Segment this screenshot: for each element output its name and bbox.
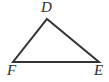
triangle-shape (0, 0, 109, 82)
vertex-label-f: F (7, 63, 16, 78)
triangle-outline (13, 19, 99, 62)
vertex-label-d: D (41, 0, 52, 15)
geometry-figure: D F E (0, 0, 109, 82)
vertex-label-e: E (94, 63, 103, 78)
